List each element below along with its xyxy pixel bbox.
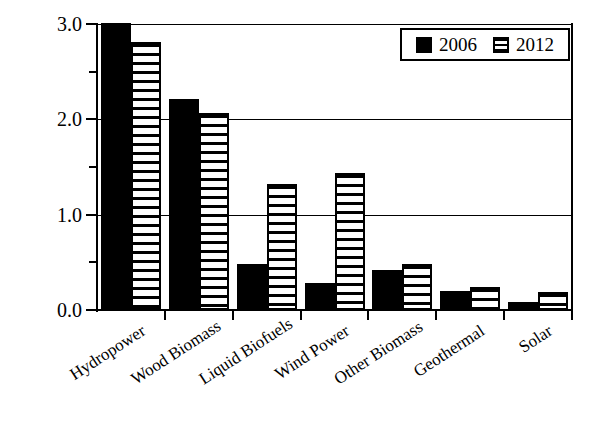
bar-liquid-biofuels-2012	[267, 184, 297, 310]
bar-wood-biomass-2012	[199, 113, 229, 310]
y-tick-label-1.0: 1.0	[36, 205, 82, 225]
legend-entry-2006: 2006	[416, 35, 477, 54]
bar-wood-biomass-2006	[169, 99, 199, 310]
x-tick-3	[300, 311, 302, 320]
legend-label-2006: 2006	[439, 35, 477, 54]
bar-other-biomass-2006	[372, 270, 402, 310]
gridline-3.0	[97, 24, 572, 25]
x-tick-7	[571, 311, 573, 320]
x-tick-4	[367, 311, 369, 320]
bar-hydropower-2012	[131, 42, 161, 310]
bar-liquid-biofuels-2006	[237, 264, 267, 310]
x-tick-6	[503, 311, 505, 320]
striped-swatch	[493, 37, 509, 53]
bar-chart-figure: Energy, EJ 0.01.02.03.0 HydropowerWood B…	[0, 0, 601, 436]
y-tick-label-2.0: 2.0	[36, 109, 82, 129]
bar-hydropower-2006	[101, 23, 131, 310]
bar-other-biomass-2012	[402, 264, 432, 310]
x-tick-5	[435, 311, 437, 320]
y-tick-label-0.0: 0.0	[36, 300, 82, 320]
bar-solar-2012	[538, 292, 568, 310]
chart-legend: 2006 2012	[400, 28, 570, 61]
x-tick-1	[164, 311, 166, 320]
bar-wind-power-2006	[305, 283, 335, 310]
bar-geothermal-2006	[440, 291, 470, 310]
bar-solar-2006	[508, 302, 538, 310]
legend-entry-2012: 2012	[493, 35, 554, 54]
x-tick-2	[232, 311, 234, 320]
solid-black-swatch	[416, 37, 432, 53]
legend-label-2012: 2012	[516, 35, 554, 54]
bar-wind-power-2012	[335, 173, 365, 310]
plot-area	[97, 24, 572, 310]
bar-geothermal-2012	[470, 287, 500, 310]
y-tick-label-3.0: 3.0	[36, 14, 82, 34]
